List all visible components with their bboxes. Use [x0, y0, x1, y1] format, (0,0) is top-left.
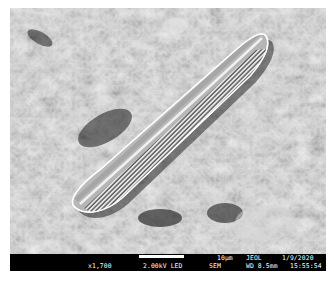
- micrograph: [10, 8, 326, 254]
- scale-label: 10µm: [217, 255, 233, 262]
- voltage-label: 2.00kV LED: [143, 263, 182, 270]
- sem-image-frame: 10µm JEOL 1/9/2020 x1,700 2.00kV LED SEM…: [10, 8, 326, 271]
- bright-particle: [235, 205, 295, 241]
- scale-bar: [139, 255, 184, 258]
- working-distance-label: WD 8.5mm: [246, 263, 278, 270]
- magnification-label: x1,700: [88, 263, 112, 270]
- shadow-region: [138, 209, 182, 227]
- bright-particle: [163, 18, 187, 34]
- manufacturer-label: JEOL: [246, 255, 262, 262]
- mode-label: SEM: [209, 263, 221, 270]
- date-label: 1/9/2020: [282, 255, 314, 262]
- sem-info-bar: 10µm JEOL 1/9/2020 x1,700 2.00kV LED SEM…: [10, 254, 326, 271]
- time-label: 15:55:54: [290, 263, 322, 270]
